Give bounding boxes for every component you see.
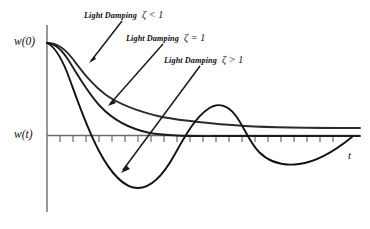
annotation-underdamped: Light Dampingζ > 1 <box>164 54 243 65</box>
annotation-underdamped-text: Light Damping <box>164 56 217 65</box>
annotation-overdamped: Light Dampingζ < 1 <box>84 9 163 20</box>
leader-line-underdamped <box>121 66 200 173</box>
leader-line-critically-damped <box>108 44 163 106</box>
annotation-critically-damped-condition: ζ = 1 <box>179 32 205 43</box>
annotation-underdamped-condition: ζ > 1 <box>217 54 243 65</box>
x-axis-label: t <box>348 149 351 161</box>
y-axis-zero-label: w(t) <box>14 128 33 140</box>
y-axis-initial-value-label: w(0) <box>14 35 35 47</box>
annotation-overdamped-condition: ζ < 1 <box>137 9 163 20</box>
annotation-critically-damped: Light Dampingζ = 1 <box>126 32 205 43</box>
annotation-overdamped-text: Light Damping <box>84 11 137 20</box>
annotation-critically-damped-text: Light Damping <box>126 34 179 43</box>
leader-line-overdamped <box>89 21 122 63</box>
